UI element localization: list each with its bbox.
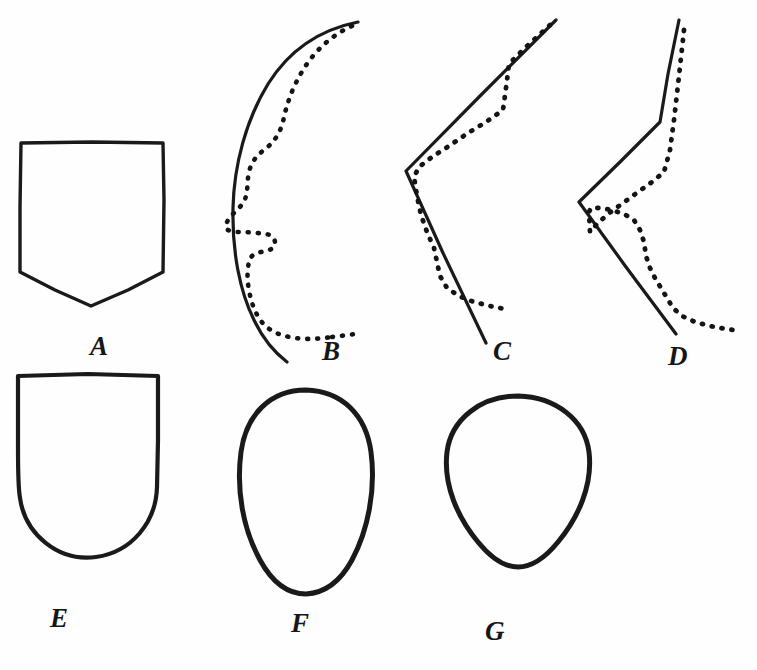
figure-label-f: F (291, 610, 310, 637)
figure-f-shape (239, 390, 372, 594)
figure-d-shape (579, 20, 741, 334)
figure-label-c: C (493, 338, 512, 365)
figure-e-shape (18, 374, 158, 558)
figure-g-shape (446, 396, 589, 567)
figure-a-shape (20, 142, 164, 306)
figure-label-b: B (322, 338, 341, 365)
figure-label-g: G (485, 618, 505, 645)
figure-b-shape (226, 22, 358, 362)
figure-label-e: E (50, 605, 69, 632)
drawing-canvas (0, 0, 757, 670)
figure-plate: A B C D E F G (0, 0, 757, 670)
figure-label-d: D (668, 343, 688, 370)
figure-c-shape (406, 20, 556, 343)
figure-label-a: A (90, 333, 109, 360)
